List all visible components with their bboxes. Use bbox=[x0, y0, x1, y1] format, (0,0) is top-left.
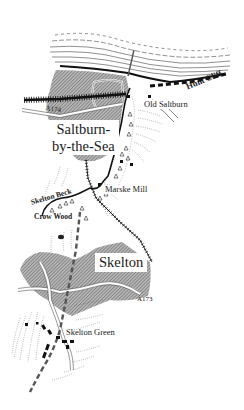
label-saltburn-line2: by-the-Sea bbox=[52, 139, 115, 154]
sea-lines bbox=[50, 33, 230, 76]
label-saltburn-line1: Saltburn- bbox=[52, 122, 115, 137]
label-skelton-green: Skelton Green bbox=[66, 328, 115, 337]
label-crow-wood: Crow Wood bbox=[34, 213, 72, 221]
label-old-saltburn: Old Saltburn bbox=[143, 100, 189, 109]
label-skelton: Skelton bbox=[95, 253, 147, 272]
label-saltburn: Saltburn- by-the-Sea bbox=[48, 120, 119, 155]
field-hatching-south bbox=[12, 300, 104, 380]
pond bbox=[58, 235, 64, 239]
label-road-a173: A173 bbox=[137, 296, 153, 303]
pier bbox=[128, 50, 134, 76]
label-marske-mill: Marske Mill bbox=[104, 185, 148, 194]
